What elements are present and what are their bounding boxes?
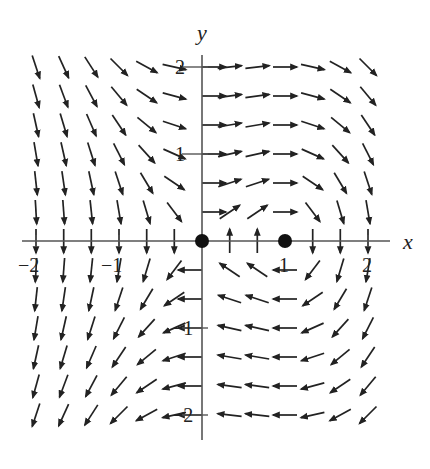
- field-arrow: [61, 316, 66, 339]
- field-arrow: [163, 121, 186, 129]
- field-arrow: [63, 258, 65, 282]
- field-arrow: [360, 377, 375, 395]
- field-arrow: [218, 355, 242, 359]
- field-arrow: [115, 172, 123, 195]
- field-arrow: [334, 289, 346, 310]
- field-arrow: [88, 317, 95, 340]
- field-arrow: [330, 61, 351, 73]
- field-arrow: [87, 346, 97, 368]
- field-arrow: [111, 407, 128, 424]
- field-arrow: [332, 145, 348, 163]
- field-arrow: [112, 115, 125, 135]
- field-arrow: [35, 171, 38, 195]
- field-arrow: [85, 57, 98, 77]
- field-arrow: [112, 347, 125, 367]
- y-tick-label: −1: [172, 317, 193, 339]
- field-arrow: [246, 123, 270, 127]
- field-arrow: [245, 66, 269, 69]
- field-arrow: [62, 171, 66, 195]
- field-arrow: [163, 93, 186, 99]
- field-arrow: [245, 384, 269, 387]
- field-arrow: [245, 414, 269, 417]
- field-arrow: [111, 59, 128, 76]
- field-arrow: [32, 56, 40, 79]
- field-arrow: [33, 84, 39, 107]
- field-arrow: [303, 292, 323, 305]
- field-arrow: [301, 412, 324, 417]
- equilibrium-point: [278, 234, 292, 248]
- field-arrow: [114, 143, 125, 164]
- field-arrow: [62, 287, 66, 311]
- field-arrow: [60, 114, 67, 137]
- field-arrow: [301, 383, 324, 389]
- field-arrow: [301, 93, 324, 99]
- field-arrow: [331, 349, 350, 364]
- field-arrow: [330, 379, 350, 392]
- field-arrow: [114, 317, 125, 338]
- field-arrow: [111, 377, 126, 395]
- field-arrow: [306, 260, 320, 279]
- field-arrow: [86, 85, 97, 106]
- field-arrow: [246, 179, 269, 187]
- field-arrow: [331, 117, 350, 132]
- y-tick-label: −2: [172, 404, 193, 426]
- field-arrow: [220, 263, 240, 276]
- field-arrow: [361, 347, 374, 367]
- field-arrow: [34, 142, 38, 166]
- field-arrow: [302, 149, 324, 159]
- field-arrow: [35, 287, 38, 311]
- field-arrow: [246, 325, 269, 330]
- field-arrow: [218, 384, 242, 387]
- field-arrow: [137, 89, 157, 102]
- field-arrow: [33, 113, 38, 136]
- field-arrow: [363, 143, 374, 164]
- field-arrow: [141, 173, 153, 194]
- field-arrow: [141, 289, 153, 310]
- field-arrow: [334, 173, 346, 194]
- field-arrow: [137, 379, 157, 392]
- field-arrow: [247, 263, 267, 276]
- field-arrow: [301, 121, 324, 129]
- field-arrow: [136, 409, 157, 421]
- field-arrow: [139, 145, 155, 163]
- field-arrow: [218, 414, 242, 417]
- field-arrow: [89, 287, 94, 310]
- field-arrow: [167, 202, 181, 221]
- field-arrow: [34, 316, 38, 340]
- field-arrow: [63, 200, 65, 224]
- field-arrow: [245, 94, 269, 97]
- field-arrow: [302, 323, 324, 333]
- field-arrow: [111, 87, 126, 105]
- field-arrow: [60, 375, 68, 397]
- field-arrow: [330, 89, 350, 102]
- field-arrow: [301, 64, 324, 69]
- field-arrow: [136, 61, 157, 73]
- field-arrow: [59, 56, 69, 78]
- field-arrow: [139, 319, 155, 337]
- field-arrow: [86, 375, 97, 396]
- field-arrow: [332, 319, 348, 337]
- field-arrow: [33, 345, 38, 368]
- field-arrow: [366, 200, 370, 224]
- x-tick-label: −2: [18, 254, 39, 276]
- y-axis-label: y: [195, 20, 207, 45]
- field-arrow: [361, 115, 374, 135]
- x-tick-label: 2: [362, 254, 372, 276]
- field-arrow: [360, 59, 377, 76]
- field-arrow: [306, 202, 320, 221]
- field-arrow: [330, 409, 351, 421]
- x-tick-label: −1: [101, 254, 122, 276]
- field-arrow: [32, 404, 40, 427]
- field-arrow: [117, 200, 121, 224]
- field-arrow: [85, 405, 98, 425]
- equilibrium-point: [195, 234, 209, 248]
- field-arrow: [246, 355, 270, 359]
- field-arrow: [303, 176, 323, 189]
- field-arrow: [164, 176, 184, 189]
- field-arrow: [88, 143, 95, 166]
- field-arrow: [87, 114, 97, 136]
- field-arrow: [337, 201, 344, 224]
- field-arrow: [59, 404, 69, 426]
- field-arrow: [360, 407, 377, 424]
- direction-field-plot: x y −2−11221−1−2: [0, 0, 430, 469]
